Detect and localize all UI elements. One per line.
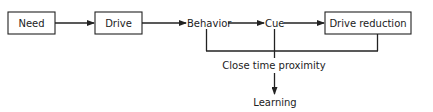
learning-theory-diagram: Need Drive Behavior Cue Drive reduction … — [0, 0, 433, 112]
close-time-proximity-label: Close time proximity — [222, 60, 325, 71]
drive-label: Drive — [105, 18, 132, 29]
behavior-label: Behavior — [187, 18, 232, 29]
drive-reduction-label: Drive reduction — [329, 18, 406, 29]
learning-label: Learning — [253, 97, 296, 108]
node-need: Need — [8, 12, 55, 34]
cue-label: Cue — [265, 18, 284, 29]
need-label: Need — [18, 18, 44, 29]
node-drive: Drive — [95, 12, 142, 34]
node-drive-reduction: Drive reduction — [325, 12, 411, 34]
